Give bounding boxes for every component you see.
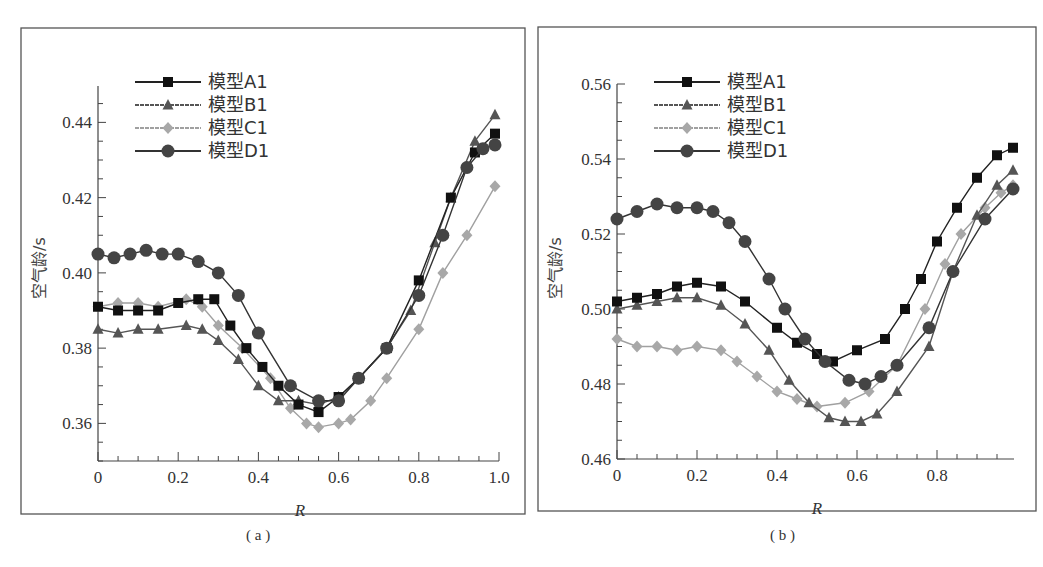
circle-marker: [476, 142, 489, 155]
chart-panel-a: 00.20.40.60.81.00.360.380.400.420.44R空气龄…: [21, 28, 525, 520]
circle-marker: [779, 303, 792, 316]
circle-marker: [436, 229, 449, 242]
legend: 模型A1模型B1模型C1模型D1: [654, 71, 788, 161]
square-marker: [740, 297, 750, 307]
diamond-marker: [413, 323, 424, 335]
square-marker: [1008, 143, 1018, 153]
square-marker: [652, 289, 662, 299]
square-marker: [716, 282, 726, 292]
square-marker: [225, 321, 235, 331]
figure-canvas: 00.20.40.60.81.00.360.380.400.420.44R空气龄…: [0, 0, 1043, 567]
circle-marker: [156, 248, 169, 261]
square-marker: [992, 150, 1002, 160]
y-tick-label: 0.38: [62, 339, 92, 358]
square-marker: [93, 302, 103, 312]
y-tick-label: 0.36: [62, 414, 92, 433]
diamond-marker: [732, 356, 743, 368]
triangle-marker: [824, 412, 835, 423]
circle-marker: [763, 273, 776, 286]
x-tick-label: 0: [613, 466, 622, 485]
legend-label: 模型C1: [208, 117, 268, 138]
square-marker: [314, 407, 324, 417]
circle-marker: [284, 379, 297, 392]
x-tick-label: 0: [94, 468, 103, 487]
legend-label: 模型A1: [208, 71, 268, 92]
legend-label: 模型A1: [727, 71, 787, 92]
series-line: [98, 134, 495, 412]
y-axis-label: 空气龄/s: [546, 237, 565, 299]
series-模型C1: [612, 179, 1019, 412]
diamond-marker: [612, 333, 623, 345]
circle-marker: [979, 213, 992, 226]
circle-marker: [192, 255, 205, 268]
y-axis-label: 空气龄/s: [30, 237, 49, 299]
square-marker: [257, 362, 267, 372]
y-tick-label: 0.42: [62, 189, 92, 208]
square-marker: [414, 275, 424, 285]
y-tick-label: 0.40: [62, 264, 92, 283]
circle-marker: [1007, 183, 1020, 196]
diamond-marker: [437, 267, 448, 279]
diamond-marker: [652, 341, 663, 353]
circle-marker: [859, 378, 872, 391]
panel-frame: [21, 28, 525, 514]
triangle-marker: [181, 320, 192, 331]
square-marker: [241, 343, 251, 353]
y-tick-label: 0.50: [581, 300, 611, 319]
diamond-marker: [313, 421, 324, 433]
legend-label: 模型B1: [727, 94, 787, 115]
triangle-marker: [1008, 164, 1019, 175]
x-axis-label: R: [811, 499, 823, 518]
square-marker: [294, 400, 304, 410]
circle-marker: [611, 213, 624, 226]
circle-marker: [947, 265, 960, 278]
square-marker: [163, 77, 173, 87]
square-marker: [612, 297, 622, 307]
square-marker: [952, 203, 962, 213]
square-marker: [193, 294, 203, 304]
legend: 模型A1模型B1模型C1模型D1: [135, 71, 269, 161]
circle-marker: [140, 244, 153, 257]
square-marker: [932, 237, 942, 247]
circle-marker: [843, 374, 856, 387]
circle-marker: [707, 205, 720, 218]
triangle-marker: [740, 318, 751, 329]
circle-marker: [739, 235, 752, 248]
square-marker: [113, 306, 123, 316]
diamond-marker: [163, 122, 174, 134]
x-tick-label: 1.0: [488, 468, 509, 487]
square-marker: [153, 306, 163, 316]
triangle-marker: [924, 341, 935, 352]
circle-marker: [124, 248, 137, 261]
circle-marker: [92, 248, 105, 261]
legend-label: 模型B1: [208, 94, 268, 115]
chart-panel-b: 00.20.40.60.80.460.480.500.520.540.56R空气…: [538, 27, 1036, 518]
circle-marker: [488, 138, 501, 151]
triangle-marker: [784, 374, 795, 385]
legend-label: 模型D1: [208, 140, 269, 161]
triangle-marker: [93, 323, 104, 334]
circle-marker: [671, 201, 684, 214]
circle-marker: [412, 289, 425, 302]
circle-marker: [108, 251, 121, 264]
panel-frame: [538, 27, 1036, 511]
circle-marker: [252, 327, 265, 340]
square-marker: [173, 298, 183, 308]
x-tick-label: 0.8: [408, 468, 429, 487]
diamond-marker: [840, 397, 851, 409]
circle-marker: [723, 216, 736, 229]
series-line: [98, 115, 495, 405]
series-line: [98, 145, 495, 401]
legend-label: 模型C1: [727, 117, 787, 138]
x-tick-label: 0.4: [248, 468, 270, 487]
circle-marker: [819, 355, 832, 368]
square-marker: [632, 293, 642, 303]
square-marker: [916, 274, 926, 284]
x-tick-label: 0.6: [328, 468, 349, 487]
diamond-marker: [920, 303, 931, 315]
circle-marker: [332, 394, 345, 407]
series-模型B1: [93, 109, 501, 409]
x-tick-label: 0.4: [766, 466, 788, 485]
triangle-marker: [672, 292, 683, 303]
square-marker: [772, 323, 782, 333]
